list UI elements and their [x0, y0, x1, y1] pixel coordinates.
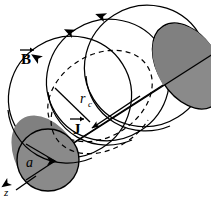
current-density-label: J [73, 121, 81, 137]
physics-figure-cylinder-magnetic-field: B J r c a z [0, 0, 211, 199]
amperian-radius-label: r [80, 91, 86, 106]
amperian-radius-subscript: c [88, 99, 92, 109]
z-axis-label: z [3, 186, 9, 198]
b-field-label: B [21, 51, 31, 67]
cylinder-radius-label: a [26, 155, 33, 170]
b-field-label-group: B [20, 48, 34, 67]
cylinder-body [11, 10, 211, 191]
current-density-label-group: J [70, 117, 84, 137]
figure-canvas: B J r c a z [0, 0, 211, 199]
j-vector-overbar-tip [80, 117, 84, 122]
